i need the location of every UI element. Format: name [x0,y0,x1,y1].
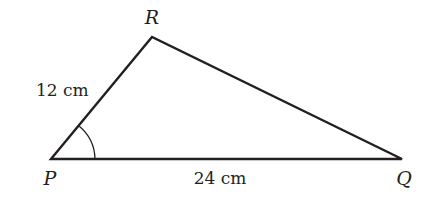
angle-arc-p [79,126,95,159]
side-label-pr: 12 cm [36,80,89,100]
triangle-diagram: R P Q 12 cm 24 cm [0,0,441,199]
vertex-label-q: Q [396,167,412,189]
triangle-pqr [51,37,402,159]
vertex-label-r: R [144,6,159,28]
vertex-label-p: P [43,167,58,189]
side-label-pq: 24 cm [194,168,247,188]
